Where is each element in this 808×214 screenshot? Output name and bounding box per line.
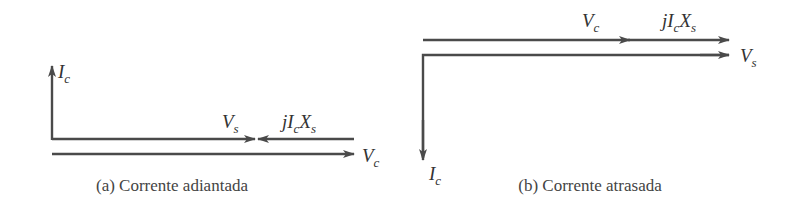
jicxs-label: jIcXs (659, 10, 696, 35)
vc-label: Vc (582, 10, 600, 35)
vs-ic-baseline (423, 55, 729, 158)
diagram-b-lagging-current: Vc jIcXs Vs Ic (b) Corrente atrasada (423, 10, 757, 195)
caption-a: (a) Corrente adiantada (96, 176, 248, 195)
jicxs-label: jIcXs (279, 111, 316, 136)
vs-label: Vs (222, 111, 239, 136)
vs-label: Vs (740, 45, 757, 70)
caption-b: (b) Corrente atrasada (518, 176, 662, 195)
vc-label: Vc (362, 145, 380, 170)
phasor-diagrams: Ic Vs jIcXs Vc (a) Corrente adiantada Vc… (0, 0, 808, 214)
ic-label: Ic (428, 163, 441, 188)
diagram-a-leading-current: Ic Vs jIcXs Vc (a) Corrente adiantada (52, 61, 380, 195)
ic-label: Ic (57, 61, 70, 86)
